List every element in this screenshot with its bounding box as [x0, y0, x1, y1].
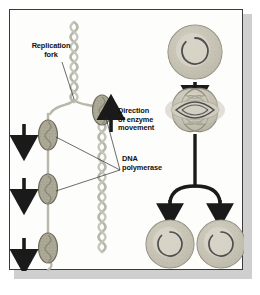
right-panel-group — [146, 25, 244, 268]
polymerase-left-bottom — [39, 233, 58, 263]
polymerase-left-upper — [39, 120, 58, 150]
label-dna-polymerase: DNA polymerase — [122, 155, 184, 172]
figure-root: Replication fork Direction of enzyme mov… — [0, 0, 260, 295]
diagram-panel: Replication fork Direction of enzyme mov… — [9, 9, 243, 270]
polymerase-left-lower — [39, 174, 58, 204]
daughter-cell-left — [146, 220, 194, 268]
label-replication-fork: Replication fork — [23, 42, 79, 59]
parent-cell — [168, 25, 222, 79]
parent-dna-strand — [71, 22, 78, 102]
division-arrow-split — [170, 134, 220, 212]
left-panel-group — [24, 22, 120, 270]
label-direction-of-enzyme-movement: Direction of enzyme movement — [118, 107, 180, 133]
diagram-panel-inner: Replication fork Direction of enzyme mov… — [10, 10, 242, 269]
daughter-cell-right — [197, 220, 244, 268]
daughter-dna-strand-right — [99, 122, 106, 252]
polymerase-right-upper — [93, 95, 112, 125]
